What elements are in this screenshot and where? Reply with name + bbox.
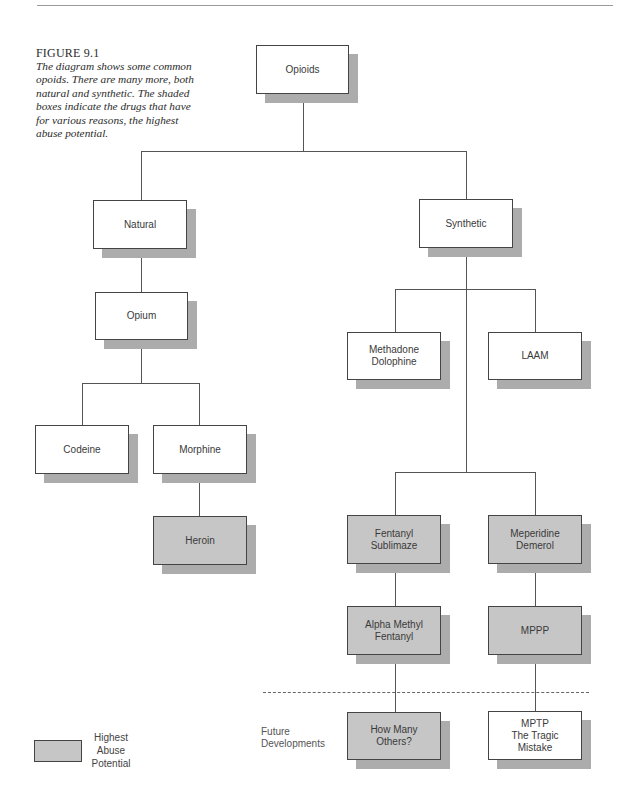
node-how-many-others: How Many Others? (347, 712, 441, 760)
edge-to-natural (141, 151, 142, 200)
legend-swatch (34, 740, 82, 762)
edge-top-branch (141, 151, 467, 152)
edge-to-meperidine (535, 472, 536, 515)
node-codeine: Codeine (35, 425, 129, 474)
node-mppp: MPPP (488, 606, 582, 655)
node-morphine: Morphine (153, 425, 247, 474)
edge-synthetic-branch-1 (395, 289, 536, 290)
edge-morphine-heroin (199, 474, 200, 516)
figure-label: FIGURE 9.1 (36, 46, 206, 60)
edge-to-methadone (395, 289, 396, 332)
edge-to-laam (535, 289, 536, 332)
node-mptp: MPTP The Tragic Mistake (488, 711, 582, 760)
node-opioids: Opioids (256, 45, 349, 94)
edge-synthetic-trunk (466, 248, 467, 472)
edge-to-morphine (199, 383, 200, 425)
edge-synthetic-branch-2 (395, 472, 536, 473)
edge-meperidine-mppp (535, 564, 536, 606)
edge-fentanyl-alpha (395, 564, 396, 606)
edge-opium-down (141, 340, 142, 383)
edge-to-codeine (82, 383, 83, 425)
node-methadone: Methadone Dolophine (347, 332, 441, 380)
edge-opioids-down (303, 94, 304, 152)
node-alpha-methyl-fentanyl: Alpha Methyl Fentanyl (347, 606, 441, 655)
node-synthetic: Synthetic (419, 199, 513, 248)
node-laam: LAAM (488, 332, 582, 380)
edge-to-fentanyl (395, 472, 396, 515)
node-fentanyl: Fentanyl Sublimaze (347, 515, 441, 564)
edge-mppp-mptp (535, 655, 536, 711)
node-natural: Natural (93, 200, 187, 249)
node-opium: Opium (95, 292, 188, 340)
future-developments-label: Future Developments (261, 726, 325, 750)
node-meperidine: Meperidine Demerol (488, 515, 582, 564)
caption-text: The diagram shows some common opoids. Th… (36, 60, 206, 140)
edge-natural-opium (141, 249, 142, 292)
header-rule (37, 5, 613, 6)
edge-alpha-howmany (395, 655, 396, 712)
node-heroin: Heroin (153, 516, 247, 565)
figure-caption: FIGURE 9.1 The diagram shows some common… (36, 46, 206, 140)
edge-to-synthetic (466, 151, 467, 199)
future-divider (263, 692, 589, 693)
legend-label: Highest Abuse Potential (88, 731, 134, 770)
edge-opium-branch (82, 383, 200, 384)
